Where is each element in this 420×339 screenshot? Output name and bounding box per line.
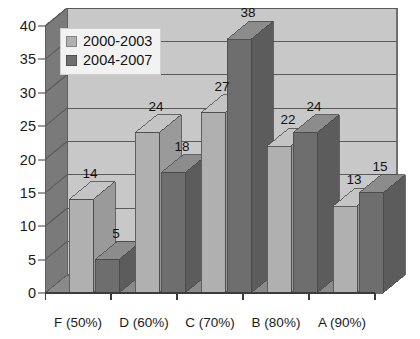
- y-axis-tick-label: 15: [6, 186, 36, 201]
- legend-swatch-2004-2007: [66, 55, 77, 66]
- legend-label: 2004-2007: [83, 53, 152, 68]
- x-axis-tick-label: D (60%): [119, 316, 169, 330]
- y-axis-tick-mark: [38, 159, 45, 160]
- x-axis-tick-label: B (80%): [252, 316, 301, 330]
- bar-value-label: 14: [82, 166, 97, 180]
- y-axis-tick-mark: [38, 293, 45, 294]
- bar-value-label: 18: [174, 139, 189, 153]
- y-axis-tick-label: 5: [6, 252, 36, 267]
- bar-value-label: 22: [280, 113, 295, 127]
- x-axis-tick-label: A (90%): [318, 316, 366, 330]
- legend-label: 2000-2003: [83, 34, 152, 49]
- y-axis-tick-mark: [38, 126, 45, 127]
- bar-value-label: 5: [112, 226, 120, 240]
- y-axis-tick-mark: [38, 226, 45, 227]
- x-axis-tick-label: C (70%): [185, 316, 235, 330]
- bar-value-label: 15: [372, 159, 387, 173]
- y-axis-tick-mark: [38, 26, 45, 27]
- x-axis-tick-label: F (50%): [54, 316, 102, 330]
- y-axis-tick-label: 25: [6, 119, 36, 134]
- y-axis-tick-mark: [38, 59, 45, 60]
- legend-item: 2000-2003: [66, 32, 152, 51]
- y-axis-tick-label: 20: [6, 152, 36, 167]
- y-axis-tick-mark: [38, 259, 45, 260]
- bar-value-label: 24: [306, 99, 321, 113]
- y-axis-tick-label: 40: [6, 19, 36, 34]
- y-axis-tick-label: 30: [6, 86, 36, 101]
- y-axis-tick-mark: [38, 192, 45, 193]
- legend-swatch-2000-2003: [66, 36, 77, 47]
- y-axis-tick-mark: [38, 92, 45, 93]
- bar-value-label: 38: [240, 6, 255, 20]
- y-axis: 0510152025303540: [0, 0, 36, 339]
- bar-chart: 0510152025303540 2000-2003 2004-2007 145…: [0, 0, 420, 339]
- bar-value-label: 24: [148, 99, 163, 113]
- bar-value-label: 27: [214, 79, 229, 93]
- y-axis-tick-label: 10: [6, 219, 36, 234]
- y-axis-tick-label: 0: [6, 286, 36, 301]
- y-axis-tick-label: 35: [6, 52, 36, 67]
- bar-value-label: 13: [346, 173, 361, 187]
- legend: 2000-2003 2004-2007: [60, 28, 161, 75]
- legend-item: 2004-2007: [66, 51, 152, 70]
